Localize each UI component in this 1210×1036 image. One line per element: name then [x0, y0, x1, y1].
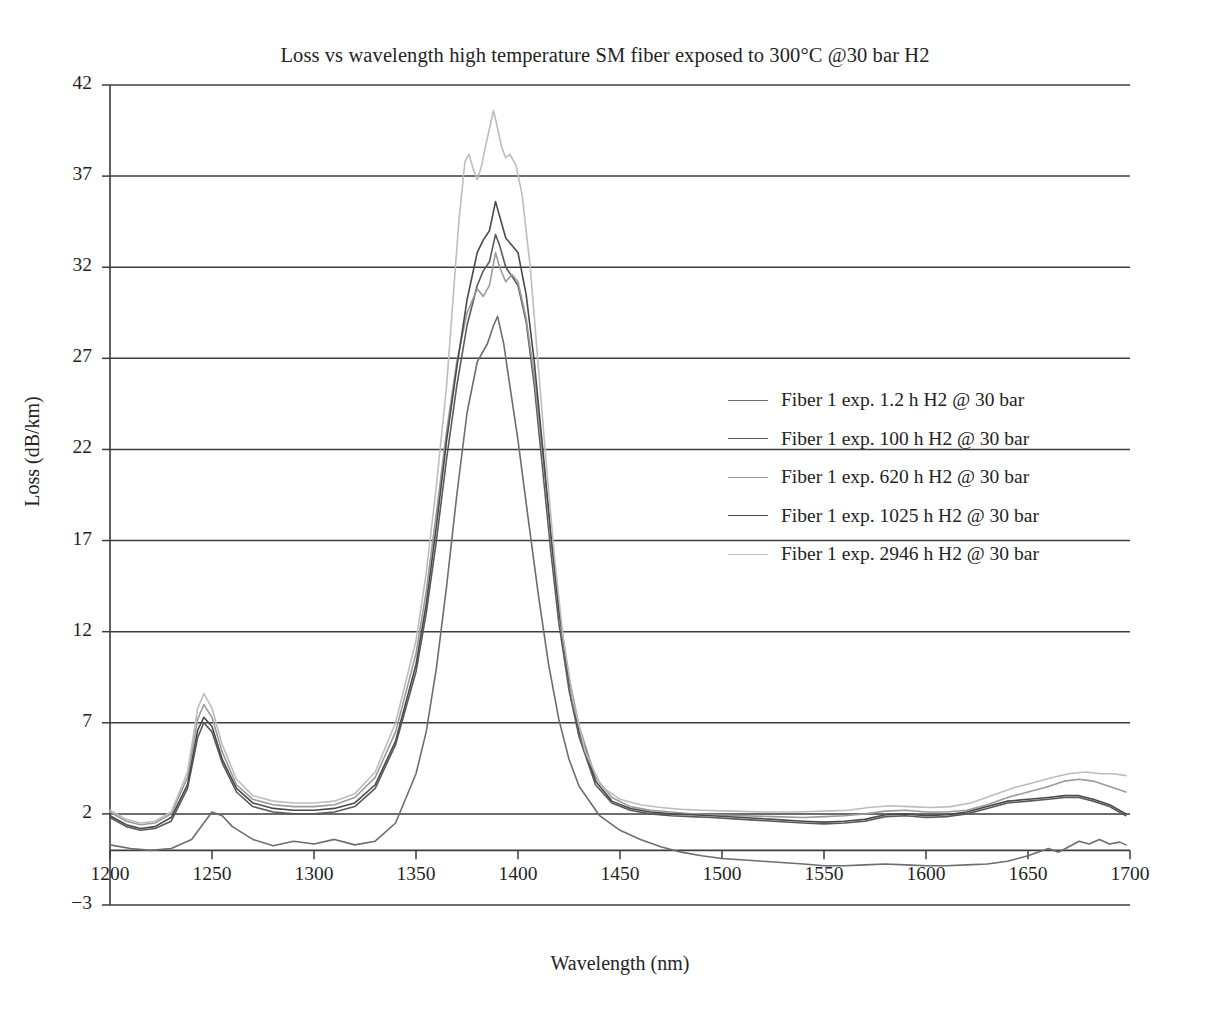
- x-tick-label: 1400: [478, 863, 558, 885]
- legend-swatch-icon: [728, 554, 768, 555]
- x-tick-label: 1500: [682, 863, 762, 885]
- x-tick-label: 1300: [274, 863, 354, 885]
- legend-label: Fiber 1 exp. 620 h H2 @ 30 bar: [781, 466, 1029, 488]
- legend-swatch-icon: [728, 515, 768, 516]
- legend-swatch-icon: [728, 438, 768, 439]
- y-tick-label: 27: [32, 345, 92, 367]
- x-tick-label: 1600: [886, 863, 966, 885]
- legend-label: Fiber 1 exp. 1025 h H2 @ 30 bar: [781, 505, 1039, 527]
- legend-item[interactable]: Fiber 1 exp. 100 h H2 @ 30 bar: [728, 420, 1108, 459]
- legend-item[interactable]: Fiber 1 exp. 2946 h H2 @ 30 bar: [728, 535, 1108, 574]
- legend-item[interactable]: Fiber 1 exp. 620 h H2 @ 30 bar: [728, 458, 1108, 497]
- y-tick-label: 7: [32, 710, 92, 732]
- y-tick-label: 17: [32, 528, 92, 550]
- x-tick-label: 1700: [1090, 863, 1170, 885]
- chart-figure: Loss vs wavelength high temperature SM f…: [0, 0, 1210, 1036]
- chart-legend: Fiber 1 exp. 1.2 h H2 @ 30 barFiber 1 ex…: [728, 381, 1108, 574]
- x-tick-label: 1450: [580, 863, 660, 885]
- x-tick-label: 1200: [70, 863, 150, 885]
- y-tick-label: 37: [32, 163, 92, 185]
- y-tick-label: 32: [32, 254, 92, 276]
- legend-item[interactable]: Fiber 1 exp. 1025 h H2 @ 30 bar: [728, 497, 1108, 536]
- x-tick-label: 1250: [172, 863, 252, 885]
- y-tick-label: 12: [32, 619, 92, 641]
- x-axis-title: Wavelength (nm): [110, 952, 1130, 975]
- y-tick-label: 2: [32, 801, 92, 823]
- x-tick-label: 1550: [784, 863, 864, 885]
- legend-label: Fiber 1 exp. 100 h H2 @ 30 bar: [781, 428, 1029, 450]
- x-tick-label: 1650: [988, 863, 1068, 885]
- y-tick-label: −3: [32, 892, 92, 914]
- legend-label: Fiber 1 exp. 2946 h H2 @ 30 bar: [781, 543, 1039, 565]
- y-tick-label: 42: [32, 72, 92, 94]
- x-tick-label: 1350: [376, 863, 456, 885]
- y-tick-label: 22: [32, 436, 92, 458]
- legend-item[interactable]: Fiber 1 exp. 1.2 h H2 @ 30 bar: [728, 381, 1108, 420]
- legend-swatch-icon: [728, 477, 768, 478]
- legend-swatch-icon: [728, 400, 768, 401]
- legend-label: Fiber 1 exp. 1.2 h H2 @ 30 bar: [781, 389, 1024, 411]
